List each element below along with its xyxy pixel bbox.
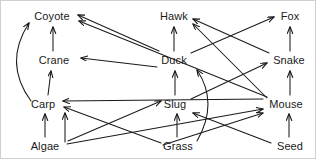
edge-arrow — [197, 70, 208, 141]
node-grass: Grass — [163, 140, 193, 153]
node-snake: Snake — [273, 54, 305, 67]
node-coyote: Coyote — [34, 10, 69, 23]
node-slug: Slug — [164, 98, 186, 111]
node-algae: Algae — [31, 140, 60, 153]
node-crane: Crane — [39, 54, 69, 67]
node-fox: Fox — [281, 10, 300, 23]
node-mouse: Mouse — [269, 98, 303, 111]
food-web-diagram: CoyoteHawkFoxCraneDuckSnakeCarpSlugMouse… — [0, 0, 316, 159]
node-hawk: Hawk — [160, 10, 188, 23]
node-duck: Duck — [161, 54, 186, 67]
edge-group — [16, 15, 290, 145]
edge-arrow — [191, 63, 267, 99]
food-web-edges-layer — [1, 1, 316, 159]
edge-arrow — [78, 15, 159, 51]
node-seed: Seed — [277, 140, 303, 153]
node-carp: Carp — [31, 98, 55, 111]
edge-arrow — [193, 113, 271, 143]
edge-arrow — [48, 71, 51, 95]
edge-arrow — [81, 58, 157, 67]
edge-arrow — [64, 107, 161, 143]
edge-arrow — [16, 23, 31, 101]
